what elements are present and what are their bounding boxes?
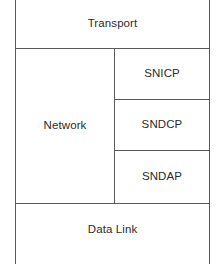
sublayer-sndcp: SNDCP bbox=[115, 99, 209, 150]
sublayer-snicp: SNICP bbox=[115, 48, 209, 99]
sublayer-sndcp-label: SNDCP bbox=[142, 118, 183, 132]
sublayer-sndap: SNDAP bbox=[115, 150, 209, 203]
layer-network-label: Network bbox=[44, 119, 87, 133]
layer-transport: Transport bbox=[16, 0, 209, 48]
layer-transport-label: Transport bbox=[88, 17, 138, 31]
sublayer-sndap-label: SNDAP bbox=[142, 170, 182, 184]
layer-datalink-label: Data Link bbox=[88, 223, 137, 237]
layer-network: Network bbox=[16, 48, 114, 203]
layer-datalink: Data Link bbox=[16, 203, 209, 256]
sublayer-snicp-label: SNICP bbox=[144, 67, 180, 81]
